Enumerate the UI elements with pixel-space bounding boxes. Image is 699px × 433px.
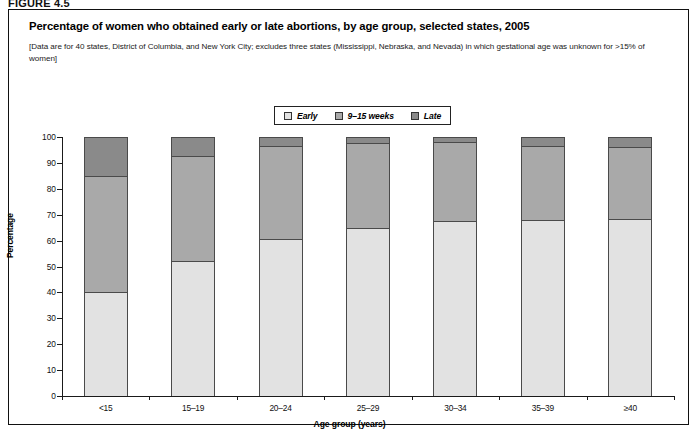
x-tick-label: 15–19 [153,403,233,413]
bar-segment-early [171,261,215,396]
bar-segment-early [608,219,652,396]
bar-segment-early [346,228,390,396]
y-tick-label: 90 [26,158,56,168]
bar-segment-middle [346,143,390,227]
chart-legend: Early 9–15 weeks Late [274,106,451,125]
x-tick-label: 20–24 [241,403,321,413]
y-tick-label: 40 [26,287,56,297]
bar-segment-late [521,137,565,146]
figure-title: Percentage of women who obtained early o… [29,20,669,33]
legend-swatch-middle [335,112,343,120]
x-tick [587,396,588,400]
bar-segment-middle [521,146,565,220]
y-tick-label: 70 [26,210,56,220]
legend-item-early[interactable]: Early [284,111,318,121]
x-tick [324,396,325,400]
bar-segment-middle [433,142,477,221]
legend-label-middle: 9–15 weeks [348,111,394,121]
bar-segment-early [84,292,128,396]
bar-segment-middle [259,146,303,239]
legend-label-late: Late [424,111,441,121]
y-tick-label: 0 [26,391,56,401]
bar-stack[interactable] [171,137,215,396]
y-tick-label: 30 [26,313,56,323]
bar-segment-middle [84,176,128,293]
x-tick-label: <15 [66,403,146,413]
legend-swatch-early [284,112,292,120]
bar-stack[interactable] [608,137,652,396]
x-tick [149,396,150,400]
bar-stack[interactable] [521,137,565,396]
bar-segment-early [433,221,477,396]
legend-item-middle[interactable]: 9–15 weeks [335,111,394,121]
x-tick-label: 35–39 [503,403,583,413]
figure-number: FIGURE 4.5 [8,0,70,9]
bar-segment-early [521,220,565,396]
bar-segment-late [608,137,652,147]
y-tick-label: 60 [26,236,56,246]
bar-stack[interactable] [84,137,128,396]
bar-stack[interactable] [346,137,390,396]
y-tick-label: 20 [26,339,56,349]
x-tick [499,396,500,400]
x-axis-title: Age group (years) [0,419,699,429]
y-tick-label: 100 [26,132,56,142]
figure-container: FIGURE 4.5 Percentage of women who obtai… [0,0,699,433]
bar-segment-middle [171,156,215,261]
x-tick [237,396,238,400]
bar-segment-late [84,137,128,176]
y-tick-label: 80 [26,184,56,194]
legend-swatch-late [411,112,419,120]
y-axis-title: Percentage [5,213,15,258]
figure-subtitle: [Data are for 40 states, District of Col… [29,41,659,64]
x-tick-label: ≥40 [590,403,670,413]
x-tick [674,396,675,400]
x-tick [412,396,413,400]
x-tick-label: 30–34 [415,403,495,413]
bar-stack[interactable] [259,137,303,396]
bar-segment-late [259,137,303,146]
bar-group [62,137,674,396]
y-tick-label: 50 [26,262,56,272]
x-tick [62,396,63,400]
x-tick-label: 25–29 [328,403,408,413]
bar-segment-early [259,239,303,396]
y-tick-label: 10 [26,365,56,375]
bar-segment-late [171,137,215,156]
bar-segment-middle [608,147,652,218]
bar-stack[interactable] [433,137,477,396]
legend-item-late[interactable]: Late [411,111,441,121]
legend-label-early: Early [297,111,318,121]
x-axis-line [62,396,674,397]
